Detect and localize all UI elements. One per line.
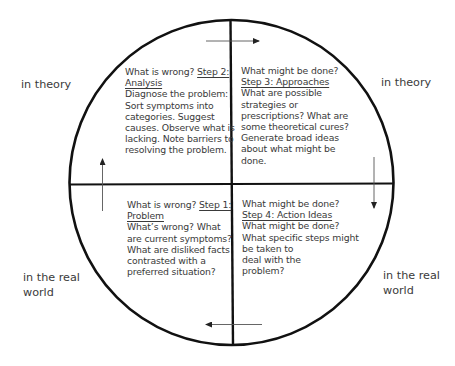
- body-line: What are possible: [241, 87, 349, 98]
- question-text: What might be done?: [241, 65, 349, 76]
- body-line: causes. Observe what is: [125, 122, 235, 133]
- body-line: about what might be: [241, 143, 349, 154]
- question-text: What is wrong?: [125, 66, 197, 77]
- body-line: preferred situation?: [127, 266, 232, 277]
- body-line: strategies or: [241, 99, 349, 110]
- quadrant-step-4-action-ideas: What might be done? Step 4: Action Ideas…: [242, 198, 359, 276]
- step-title-continued: Analysis: [125, 77, 235, 88]
- label-line: in the real: [23, 271, 80, 286]
- body-line: What might be done?: [242, 220, 359, 231]
- body-line: done.: [241, 155, 349, 166]
- step-title: Step 1:: [199, 199, 231, 210]
- question-text: What is wrong?: [127, 199, 199, 210]
- quadrant-step-2-analysis: What is wrong? Step 2: Analysis Diagnose…: [125, 66, 235, 156]
- body-line: Sort symptoms into: [125, 100, 235, 111]
- step-title: Step 2:: [197, 66, 229, 77]
- label-in-theory-right: in theory: [381, 76, 431, 91]
- body-line: contrasted with a: [127, 255, 232, 266]
- question-text: What might be done?: [242, 198, 359, 209]
- diagram-graphics: [0, 0, 455, 366]
- label-real-world-right: in the real world: [383, 269, 440, 298]
- body-line: Generate broad ideas: [241, 132, 349, 143]
- quadrant-step-1-problem: What is wrong? Step 1: Problem What’s wr…: [127, 199, 232, 277]
- quadrant-heading: What is wrong? Step 2:: [125, 66, 235, 77]
- body-line: deal with the: [242, 254, 359, 265]
- label-line: world: [23, 286, 80, 301]
- body-line: What’s wrong? What: [127, 221, 232, 232]
- body-line: What specific steps might: [242, 232, 359, 243]
- horizontal-divider: [70, 184, 394, 185]
- body-line: problem?: [242, 265, 359, 276]
- step-title: Step 3: Approaches: [241, 76, 349, 87]
- body-line: prescriptions? What are: [241, 110, 349, 121]
- label-real-world-left: in the real world: [23, 271, 80, 300]
- label-in-theory-left: in theory: [21, 78, 71, 93]
- body-line: Diagnose the problem:: [125, 88, 235, 99]
- label-line: world: [383, 284, 440, 299]
- body-line: are current symptoms?: [127, 233, 232, 244]
- quadrant-heading: What is wrong? Step 1:: [127, 199, 232, 210]
- problem-solving-circle-diagram: in theory in theory in the real world in…: [0, 0, 455, 366]
- body-line: some theoretical cures?: [241, 121, 349, 132]
- body-line: resolving the problem.: [125, 144, 235, 155]
- label-line: in theory: [381, 76, 431, 91]
- body-line: categories. Suggest: [125, 111, 235, 122]
- step-title-continued: Problem: [127, 210, 232, 221]
- step-title: Step 4: Action Ideas: [242, 209, 359, 220]
- quadrant-step-3-approaches: What might be done? Step 3: Approaches W…: [241, 65, 349, 166]
- label-line: in theory: [21, 78, 71, 93]
- body-line: What are disliked facts: [127, 244, 232, 255]
- body-line: be taken to: [242, 243, 359, 254]
- label-line: in the real: [383, 269, 440, 284]
- body-line: lacking. Note barriers to: [125, 133, 235, 144]
